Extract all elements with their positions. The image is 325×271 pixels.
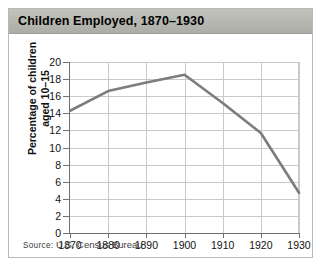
y-tick-mark (63, 130, 70, 131)
gridline-vertical (299, 62, 300, 233)
y-tick-label: 0 (55, 227, 61, 239)
y-tick-label: 2 (55, 210, 61, 222)
x-tick-mark (108, 233, 109, 238)
y-tick-mark (63, 182, 70, 183)
y-axis-title-line-1: Percentage of children (26, 24, 39, 174)
plot-area: 02468101214161820 1870188018901900191019… (69, 62, 299, 234)
y-tick-mark (63, 62, 70, 63)
y-tick-mark (63, 79, 70, 80)
x-tick-mark (185, 233, 186, 238)
series-line (70, 62, 299, 233)
y-axis-title: Percentage of children aged 10–15 (26, 24, 51, 174)
chart-title-bar: Children Employed, 1870–1930 (9, 9, 312, 34)
source-value: U.S. Census Bureau (53, 239, 142, 250)
y-tick-label: 14 (49, 107, 61, 119)
y-tick-label: 4 (55, 193, 61, 205)
y-tick-label: 8 (55, 159, 61, 171)
source-label: Source: (23, 241, 53, 250)
y-tick-label: 12 (49, 124, 61, 136)
x-tick-mark (299, 233, 300, 238)
chart-body: Percentage of children aged 10–15 024681… (9, 34, 312, 257)
y-tick-mark (63, 165, 70, 166)
y-tick-label: 20 (49, 56, 61, 68)
x-tick-label: 1900 (173, 239, 196, 251)
x-tick-label: 1910 (211, 239, 234, 251)
y-tick-mark (63, 233, 70, 234)
source-note: Source: U.S. Census Bureau (23, 239, 143, 250)
x-tick-label: 1920 (249, 239, 272, 251)
x-tick-mark (146, 233, 147, 238)
chart-figure: Children Employed, 1870–1930 Percentage … (8, 8, 313, 258)
y-tick-label: 18 (49, 73, 61, 85)
y-tick-mark (63, 148, 70, 149)
y-tick-label: 16 (49, 90, 61, 102)
y-tick-mark (63, 96, 70, 97)
x-tick-mark (70, 233, 71, 238)
y-tick-mark (63, 216, 70, 217)
x-tick-mark (261, 233, 262, 238)
y-tick-label: 6 (55, 176, 61, 188)
y-tick-label: 10 (49, 142, 61, 154)
x-tick-mark (223, 233, 224, 238)
y-tick-mark (63, 199, 70, 200)
y-tick-mark (63, 113, 70, 114)
x-tick-label: 1930 (287, 239, 310, 251)
